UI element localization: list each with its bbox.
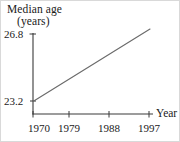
median-age-trend-line (33, 29, 150, 102)
data-series-median-age (33, 29, 150, 102)
plot-area (1, 1, 180, 142)
axes (30, 33, 154, 118)
chart-figure: Median age (years) 26.8 23.2 Year 1970 1… (0, 0, 180, 142)
